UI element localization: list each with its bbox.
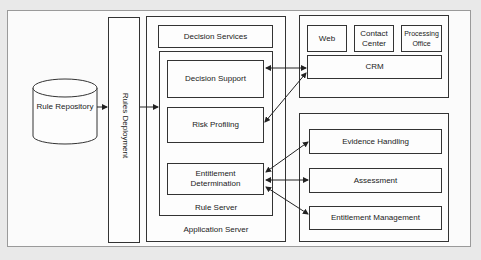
rules-deployment-label: Rules Deployment <box>121 84 130 168</box>
assessment-box: Assessment <box>309 168 442 193</box>
entitlement-management-box: Entitlement Management <box>309 206 442 230</box>
contact-center-box: Contact Center <box>354 25 394 52</box>
decision-services-label: Decision Services <box>184 32 248 42</box>
rule-server-label: Rule Server <box>159 203 273 213</box>
application-server-label: Application Server <box>146 225 286 235</box>
contact-center-label-line1: Contact <box>360 29 388 39</box>
risk-profiling-label: Risk Profiling <box>192 120 239 130</box>
processing-office-label-line1: Processing <box>404 29 439 39</box>
decision-support-label: Decision Support <box>185 74 246 84</box>
entitlement-determination-label-line1: Entitlement <box>195 169 235 179</box>
web-label: Web <box>319 34 335 44</box>
rule-repository-label: Rule Repository <box>33 102 97 112</box>
contact-center-label-line2: Center <box>362 39 386 49</box>
crm-label: CRM <box>365 62 383 72</box>
crm-box: CRM <box>307 55 442 79</box>
decision-services-box: Decision Services <box>158 25 273 48</box>
entitlement-determination-label-line2: Determination <box>191 179 241 189</box>
risk-profiling-box: Risk Profiling <box>167 107 264 143</box>
decision-support-box: Decision Support <box>167 60 264 98</box>
entitlement-determination-box: Entitlement Determination <box>167 163 264 195</box>
rules-deployment-box: Rules Deployment <box>108 17 140 243</box>
processing-office-box: Processing Office <box>401 25 442 52</box>
assessment-label: Assessment <box>354 176 398 186</box>
web-box: Web <box>307 25 347 52</box>
evidence-handling-box: Evidence Handling <box>309 129 442 154</box>
evidence-handling-label: Evidence Handling <box>342 137 409 147</box>
processing-office-label-line2: Office <box>412 39 430 49</box>
entitlement-management-label: Entitlement Management <box>331 213 420 223</box>
